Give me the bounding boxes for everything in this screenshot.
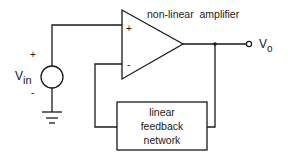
output-label: Vo: [259, 37, 273, 54]
circuit-diagram: + - non-linear amplifier + - Vin Vo line…: [0, 0, 288, 157]
source-plus-sign: +: [30, 49, 36, 60]
voltage-source-icon: [41, 66, 63, 88]
amplifier-label: non-linear amplifier: [147, 8, 240, 20]
input-wire: [52, 25, 122, 66]
output-terminal-icon: [246, 41, 251, 46]
feedback-label-line3: network: [144, 134, 182, 146]
feedback-label-line2: feedback: [141, 120, 184, 132]
source-label: Vin: [15, 69, 32, 86]
amplifier-minus-sign: -: [127, 59, 130, 70]
feedback-wire-right: [207, 44, 215, 127]
amplifier-plus-sign: +: [126, 23, 132, 34]
feedback-wire-left: [95, 64, 122, 127]
amplifier-triangle: [122, 10, 183, 79]
ground-icon: [42, 112, 62, 123]
output-label-sub: o: [267, 43, 273, 54]
source-label-sub: in: [23, 74, 32, 86]
source-label-main: V: [15, 69, 23, 83]
source-minus-sign: -: [31, 87, 34, 98]
feedback-label-line1: linear: [149, 106, 175, 118]
output-label-main: V: [259, 37, 267, 51]
